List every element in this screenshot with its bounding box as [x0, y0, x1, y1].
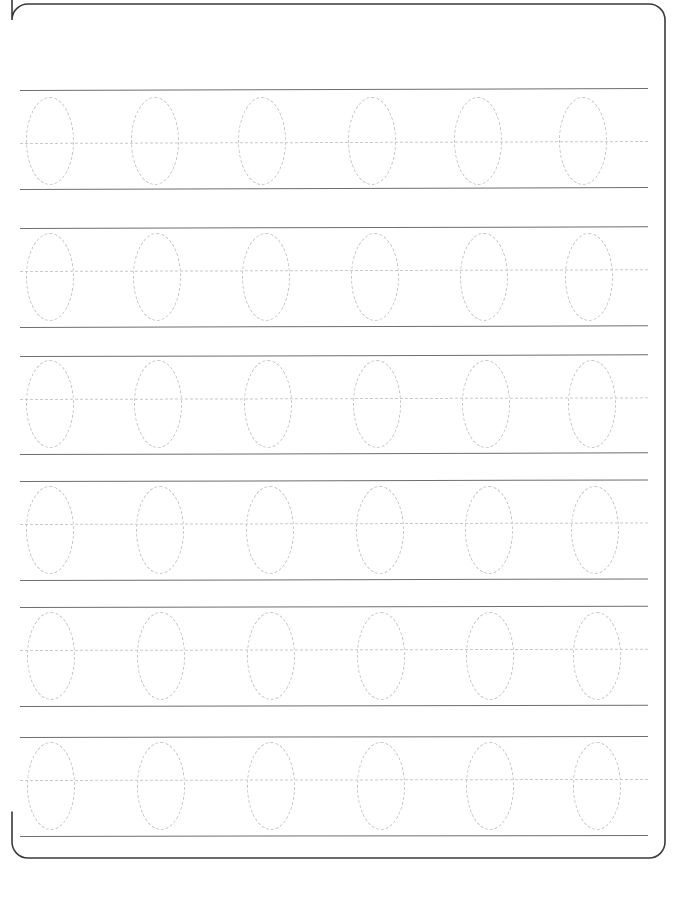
tracing-oval-guide	[27, 742, 75, 830]
worksheet-page	[0, 0, 698, 897]
tracing-oval-guide	[466, 742, 514, 830]
row-bottom-rule-line	[20, 835, 648, 837]
tracing-oval-guide	[137, 742, 185, 830]
row-top-rule-line	[20, 736, 648, 738]
tracing-oval-guide	[357, 742, 405, 830]
tracing-oval-guide	[247, 742, 295, 830]
tracing-oval-guide	[573, 742, 621, 830]
row-dashed-midline	[20, 779, 648, 781]
practice-row	[0, 0, 698, 897]
